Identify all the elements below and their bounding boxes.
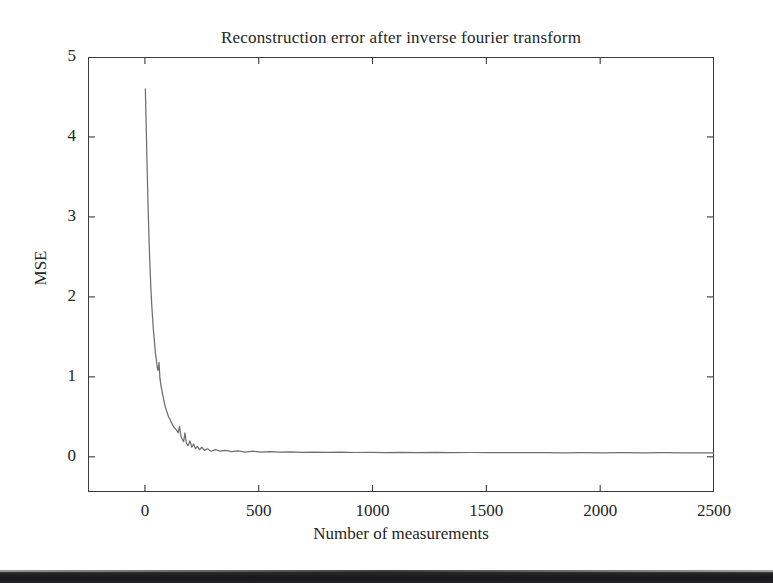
- plot-area: [88, 57, 714, 492]
- x-axis-title: Number of measurements: [88, 524, 714, 544]
- x-tick-label: 1000: [333, 501, 413, 521]
- figure-canvas: Reconstruction error after inverse fouri…: [0, 0, 773, 588]
- y-tick-marks: [88, 57, 714, 457]
- y-tick-label: 0: [42, 446, 76, 466]
- x-tick-label: 0: [105, 501, 185, 521]
- x-tick-label: 500: [219, 501, 299, 521]
- y-tick-label: 1: [42, 366, 76, 386]
- y-tick-label: 5: [42, 46, 76, 66]
- y-axis-title: MSE: [31, 218, 51, 318]
- x-tick-label: 2000: [560, 501, 640, 521]
- x-tick-marks: [145, 57, 714, 492]
- y-tick-label: 4: [42, 126, 76, 146]
- x-tick-label: 1500: [446, 501, 526, 521]
- scan-artifact-bar: [0, 572, 773, 583]
- x-tick-label: 2500: [674, 501, 754, 521]
- data-series-mse-line: [145, 89, 714, 453]
- chart-title: Reconstruction error after inverse fouri…: [88, 28, 714, 48]
